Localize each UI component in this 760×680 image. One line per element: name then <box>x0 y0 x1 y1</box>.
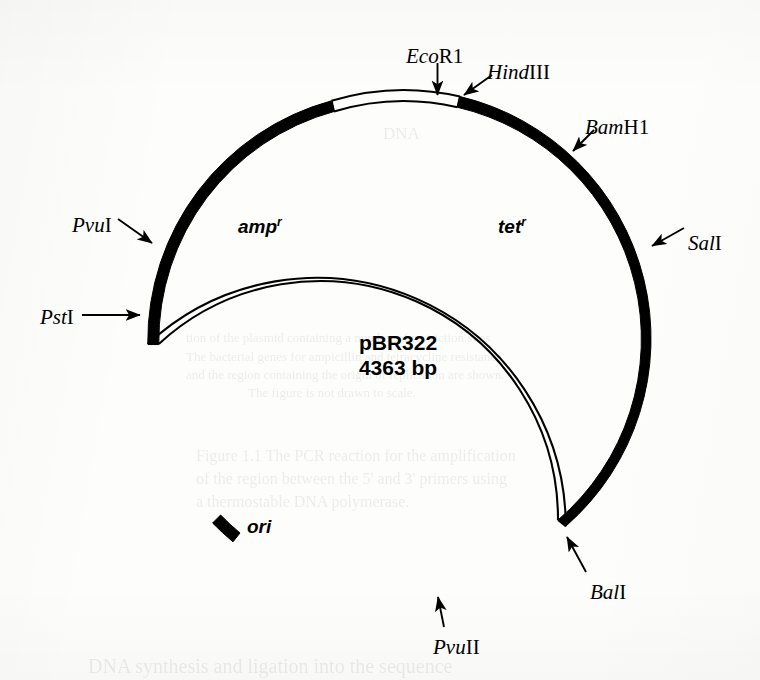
label-pvuii-italic: Pvu <box>433 635 466 659</box>
figure-canvas: DNAtion of the plasmid containing a numb… <box>0 0 760 680</box>
label-psti: PstI <box>40 307 74 328</box>
label-pvuii-roman: II <box>466 635 480 659</box>
outline-arc-inner-edge <box>159 281 558 520</box>
arrow-pvui <box>118 219 152 243</box>
outline-arc-ecor1-window <box>332 90 461 111</box>
outline-arc-end-caps <box>148 97 566 527</box>
ori-marker <box>213 515 240 542</box>
label-ecor1-italic: Eco <box>406 44 439 68</box>
label-pvuii: PvuII <box>433 637 480 658</box>
label-amp-gene-superscript: r <box>277 215 282 229</box>
label-psti-italic: Pst <box>40 305 67 329</box>
arrow-sali <box>652 228 684 246</box>
plasmid-size: 4363 bp <box>328 356 468 381</box>
label-bamh1-italic: Bam <box>585 115 624 139</box>
label-ecor1: EcoR1 <box>406 46 463 67</box>
label-amp-gene: ampr <box>238 216 282 236</box>
arrow-bali <box>567 537 586 572</box>
label-tet-gene-text: tet <box>498 216 521 237</box>
filled-arc-tet-region <box>458 97 652 527</box>
label-pvui: PvuI <box>72 215 112 236</box>
label-bali: BalI <box>590 582 626 603</box>
label-bali-italic: Bal <box>590 580 619 604</box>
label-hindiii: HindIII <box>487 62 550 83</box>
arrow-pvuii <box>438 597 444 627</box>
label-bali-roman: I <box>619 580 626 604</box>
ecor1-window-inner-edge <box>334 101 458 111</box>
label-sali-roman: I <box>715 231 722 255</box>
label-psti-roman: I <box>67 305 74 329</box>
label-ecor1-roman: R1 <box>439 44 464 68</box>
outline-arc-outer-edge <box>148 278 566 526</box>
label-bamh1-roman: H1 <box>624 115 650 139</box>
label-ori: ori <box>247 517 271 536</box>
outline-arc-ori-region <box>148 278 566 526</box>
label-tet-gene-superscript: r <box>521 215 526 229</box>
label-hindiii-roman: III <box>529 60 550 84</box>
plasmid-name: pBR322 <box>328 331 468 356</box>
ecor1-window-outer-edge <box>332 90 461 101</box>
label-pvui-roman: I <box>105 213 112 237</box>
label-tet-gene: tetr <box>498 216 526 236</box>
label-bamh1: BamH1 <box>585 117 649 138</box>
label-pvui-italic: Pvu <box>72 213 105 237</box>
plasmid-caption: pBR322 4363 bp <box>328 331 468 381</box>
label-sali: SalI <box>688 233 722 254</box>
label-hindiii-italic: Hind <box>487 60 529 84</box>
outline-arc-ori-region-inner <box>159 281 558 520</box>
label-amp-gene-text: amp <box>238 216 277 237</box>
label-sali-italic: Sal <box>688 231 715 255</box>
